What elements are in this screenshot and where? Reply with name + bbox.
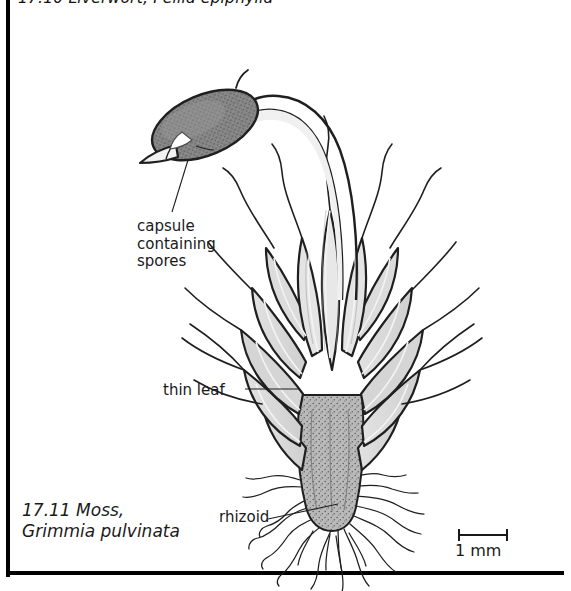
label-capsule-line2: containing	[137, 236, 216, 254]
figure-page: 17.10 Liverwort, Pellia epiphylla	[0, 0, 571, 591]
scale-bar-line	[458, 534, 508, 536]
leader-capsule	[172, 160, 188, 212]
scale-bar	[458, 529, 508, 541]
figure-caption-line2: Grimmia pulvinata	[22, 521, 180, 542]
figure-caption: 17.11 Moss, Grimmia pulvinata	[22, 500, 180, 542]
label-capsule: capsule containing spores	[137, 218, 216, 271]
capsule-bristle	[236, 70, 248, 88]
label-rhizoid: rhizoid	[219, 509, 269, 527]
scale-bar-cap-right	[506, 529, 508, 541]
figure-caption-line1: 17.11 Moss,	[22, 500, 124, 520]
label-thin-leaf: thin leaf	[163, 382, 225, 400]
label-capsule-line3: spores	[137, 253, 216, 271]
label-capsule-line1: capsule	[137, 218, 216, 236]
scale-bar-label: 1 mm	[455, 541, 501, 560]
